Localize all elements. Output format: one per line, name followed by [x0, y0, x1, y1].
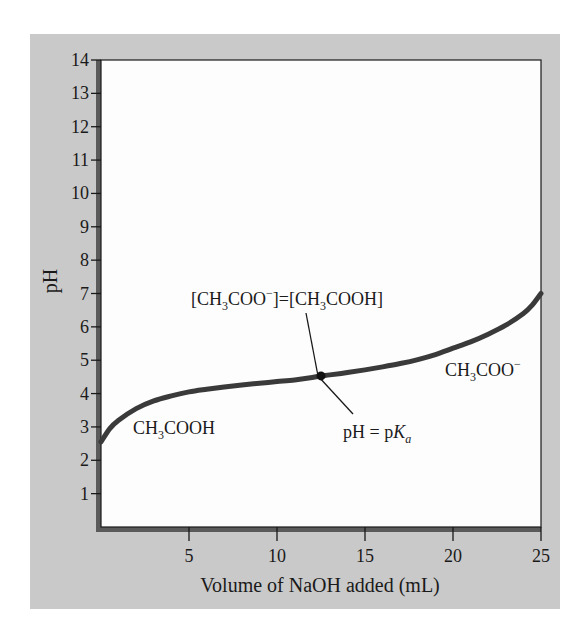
y-tick-label: 8 [80, 250, 89, 270]
x-tick-label: 15 [356, 546, 374, 566]
y-tick-label: 11 [72, 150, 89, 170]
y-tick-label: 7 [80, 284, 89, 304]
y-tick-label: 12 [71, 117, 89, 137]
x-axis-label: Volume of NaOH added (mL) [200, 574, 440, 597]
y-axis-label: pH [39, 269, 62, 293]
y-tick-label: 2 [80, 450, 89, 470]
titration-chart: 1234567891011121314 510152025 pH Volume … [0, 0, 579, 638]
conjugate-base-label: CH3COO− [445, 357, 521, 384]
titration-figure: 1234567891011121314 510152025 pH Volume … [0, 0, 579, 638]
y-tick-label: 4 [80, 384, 89, 404]
y-tick-label: 6 [80, 317, 89, 337]
y-tick-label: 5 [80, 350, 89, 370]
y-tick-label: 10 [71, 183, 89, 203]
equality-annotation: [CH3COO−]=[CH3COOH] [191, 286, 383, 313]
y-tick-label: 9 [80, 217, 89, 237]
y-tick-label: 14 [71, 50, 89, 70]
y-tick-label: 3 [80, 417, 89, 437]
x-tick-label: 20 [444, 546, 462, 566]
half-equivalence-point-marker [317, 371, 326, 380]
plot-area [101, 60, 541, 527]
x-tick-label: 5 [185, 546, 194, 566]
x-tick-label: 10 [268, 546, 286, 566]
y-tick-label: 1 [80, 484, 89, 504]
x-tick-label: 25 [532, 546, 550, 566]
y-tick-label: 13 [71, 83, 89, 103]
